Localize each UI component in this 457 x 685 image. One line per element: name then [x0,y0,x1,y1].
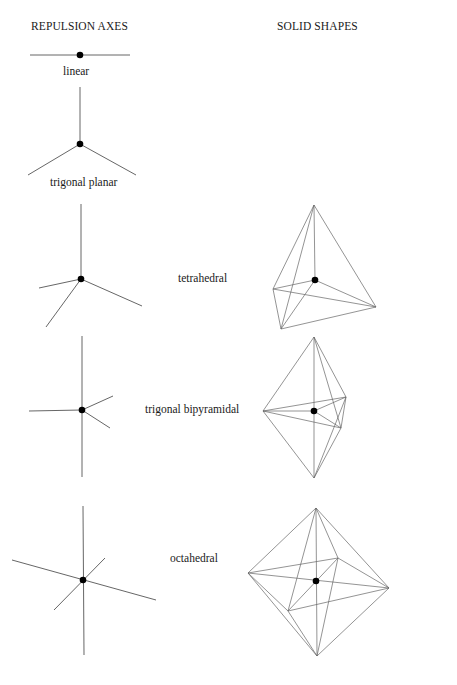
vsepr-diagram [0,0,457,685]
linear-axes [30,52,130,59]
trigonal-bipyramid-solid [263,337,346,478]
trigonal-bipyramidal-axes [29,336,113,477]
trigonal-planar-axes [28,87,136,175]
octahedral-axes [12,506,156,655]
tetrahedral-axes [39,204,142,327]
octahedron-solid [248,508,389,656]
tetrahedron-solid [273,205,376,329]
